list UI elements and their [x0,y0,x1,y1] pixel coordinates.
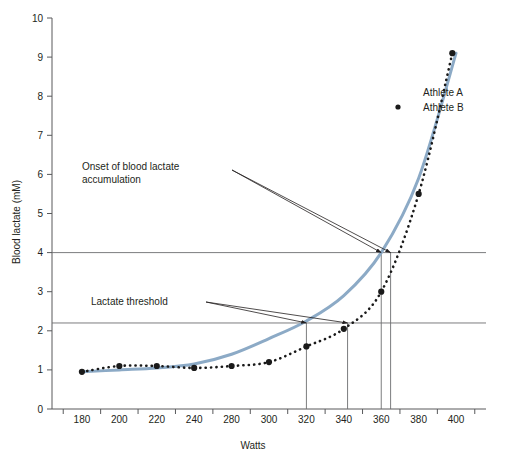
annotation-leader-lines [206,170,391,323]
x-axis-tick-labels: 180200220240280300320340360380400 [74,414,465,425]
leader-line-lactate-threshold-annotation-2 [206,302,348,323]
obla-annotation-line2: accumulation [82,174,141,185]
y-tick-label-6: 6 [37,169,43,180]
data-series-group [79,50,456,375]
lactate-threshold-chart: 012345678910 180200220240280300320340360… [0,0,507,455]
y-axis-tick-labels: 012345678910 [32,13,44,415]
x-tick-label-220: 220 [148,414,165,425]
y-tick-label-2: 2 [37,325,43,336]
leader-line-obla-annotation-2 [232,170,391,253]
x-tick-label-180: 180 [74,414,91,425]
data-point-320 [341,326,347,332]
data-point-280 [266,359,272,365]
series-athlete-a [82,53,456,372]
series-athlete-b [79,50,456,375]
data-point-378 [449,50,455,56]
legend-label-athlete-b: Athlete B [423,102,464,113]
data-point-360 [416,191,422,197]
legend-label-athlete-a: Athlete A [423,87,463,98]
x-tick-label-280: 280 [223,414,240,425]
x-axis-title: Watts [240,440,265,451]
y-axis-title: Blood lactate (mM) [11,180,22,264]
drop-lines-group [306,253,390,409]
data-point-200 [116,363,122,369]
x-tick-label-200: 200 [111,414,128,425]
y-tick-label-1: 1 [37,364,43,375]
y-tick-label-0: 0 [37,404,43,415]
y-tick-label-9: 9 [37,52,43,63]
y-tick-label-3: 3 [37,286,43,297]
data-point-180 [79,369,85,375]
y-tick-label-4: 4 [37,247,43,258]
x-tick-label-320: 320 [298,414,315,425]
leader-line-obla-annotation-1 [232,170,381,253]
x-tick-label-380: 380 [410,414,427,425]
y-tick-label-8: 8 [37,91,43,102]
legend-item-athlete-b: Athlete B [383,102,464,113]
chart-svg-canvas: 012345678910 180200220240280300320340360… [0,0,507,455]
obla-annotation-line1: Onset of blood lactate [82,161,180,172]
data-point-340 [378,289,384,295]
data-point-240 [191,365,197,371]
legend-marker-athlete-b [395,104,400,109]
x-tick-label-240: 240 [186,414,203,425]
y-tick-label-5: 5 [37,208,43,219]
series-line-1 [82,53,456,372]
lactate-threshold-annotation-line1: Lactate threshold [91,296,168,307]
data-point-220 [154,363,160,369]
chart-legend: Athlete A Athlete B [383,87,464,113]
data-point-260 [228,363,234,369]
x-tick-label-300: 300 [261,414,278,425]
series-line-2 [82,53,452,372]
leader-line-lactate-threshold-annotation-1 [206,302,306,323]
y-tick-label-7: 7 [37,130,43,141]
x-tick-label-340: 340 [335,414,352,425]
reference-lines-group [52,253,486,323]
legend-item-athlete-a: Athlete A [383,87,463,98]
data-point-300 [303,343,309,349]
x-tick-label-400: 400 [448,414,465,425]
y-axis-ticks [47,18,52,409]
x-tick-label-360: 360 [373,414,390,425]
y-tick-label-10: 10 [32,13,44,24]
